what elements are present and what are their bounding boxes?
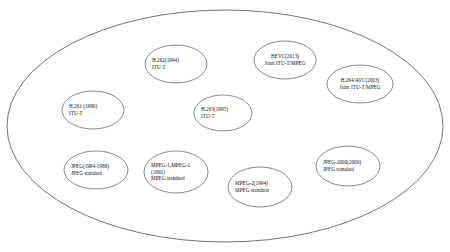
mpeg1-mpeg2-node[interactable] xyxy=(144,151,208,193)
diagram-canvas: H.262(1994)ITU-THEVC(2013)Joint ITU-T/MP… xyxy=(0,0,450,252)
jpeg-2000-node[interactable] xyxy=(316,146,380,186)
h263-node[interactable] xyxy=(194,95,252,131)
diagram-shapes xyxy=(0,0,450,252)
mpeg2-node[interactable] xyxy=(228,167,292,207)
h262-node[interactable] xyxy=(145,45,207,83)
hevc-node[interactable] xyxy=(254,41,316,79)
h264-avc-node[interactable] xyxy=(327,65,393,103)
jpeg-node[interactable] xyxy=(64,151,128,189)
h261-node[interactable] xyxy=(62,91,124,129)
